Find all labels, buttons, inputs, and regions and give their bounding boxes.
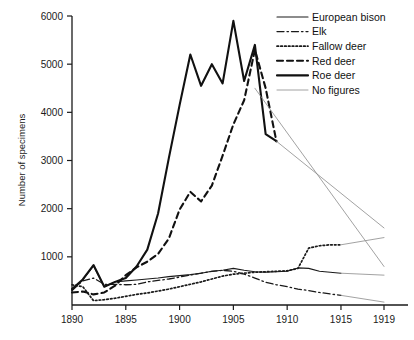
series-line-no-figures	[341, 295, 384, 302]
legend-label-european-bison: European bison	[312, 11, 386, 23]
series-line-no-figures	[276, 141, 384, 228]
y-tick-label: 2000	[41, 203, 64, 214]
x-tick-label: 1905	[222, 314, 245, 325]
x-tick-label: 1900	[168, 314, 191, 325]
x-tick-label: 1919	[373, 314, 396, 325]
y-axis-title: Number of specimens	[16, 114, 27, 207]
series-line-no-figures	[341, 238, 384, 245]
x-axis-ticks: 1890189519001905191019151919	[61, 305, 396, 325]
x-tick-label: 1915	[330, 314, 353, 325]
y-tick-label: 5000	[41, 59, 64, 70]
y-tick-label: 6000	[41, 11, 64, 22]
legend-label-fallow-deer: Fallow deer	[312, 40, 367, 52]
series-line-no-figures	[341, 273, 384, 275]
legend-label-roe-deer: Roe deer	[312, 69, 356, 81]
legend-label-elk: Elk	[312, 25, 327, 37]
y-tick-label: 4000	[41, 107, 64, 118]
legend-label-red-deer: Red deer	[312, 55, 356, 67]
specimens-line-chart: Number of specimens 10002000300040005000…	[0, 0, 414, 340]
series-line-red-deer	[72, 50, 276, 295]
chart-legend: European bisonElkFallow deerRed deerRoe …	[277, 11, 386, 96]
y-tick-label: 1000	[41, 251, 64, 262]
x-tick-label: 1895	[115, 314, 138, 325]
series-line-no-figures	[255, 88, 384, 266]
legend-label-no-figures: No figures	[312, 84, 360, 96]
series-line-roe-deer	[72, 21, 276, 289]
y-tick-label: 3000	[41, 155, 64, 166]
y-axis-ticks: 100020003000400050006000	[41, 11, 72, 263]
x-tick-label: 1910	[276, 314, 299, 325]
x-tick-label: 1890	[61, 314, 84, 325]
